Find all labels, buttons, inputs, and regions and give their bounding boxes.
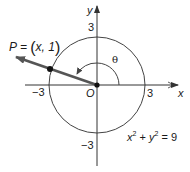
origin-point xyxy=(94,82,99,87)
coordinate-diagram xyxy=(0,0,190,172)
y-tick-positive: 3 xyxy=(88,22,94,33)
y-tick-negative: −3 xyxy=(81,140,94,151)
angle-theta-arc xyxy=(77,63,119,85)
x-tick-positive: 3 xyxy=(147,88,153,99)
point-p-prefix: P = xyxy=(9,40,30,54)
theta-label: θ xyxy=(112,55,118,65)
origin-label: O xyxy=(86,88,95,99)
point-p-close-paren: ) xyxy=(55,39,60,56)
x-tick-negative: −3 xyxy=(32,87,45,98)
point-p-coords: x, 1 xyxy=(36,40,55,54)
y-axis-label: y xyxy=(87,5,93,16)
point-p-label: P = (x, 1) xyxy=(9,40,60,56)
circle-equation: x2 + y2 = 9 xyxy=(127,132,177,143)
point-p xyxy=(47,66,53,72)
eq-plus: + xyxy=(136,131,149,143)
terminal-ray xyxy=(16,57,97,85)
eq-rhs: = 9 xyxy=(158,131,177,143)
x-axis-label: x xyxy=(178,88,184,99)
